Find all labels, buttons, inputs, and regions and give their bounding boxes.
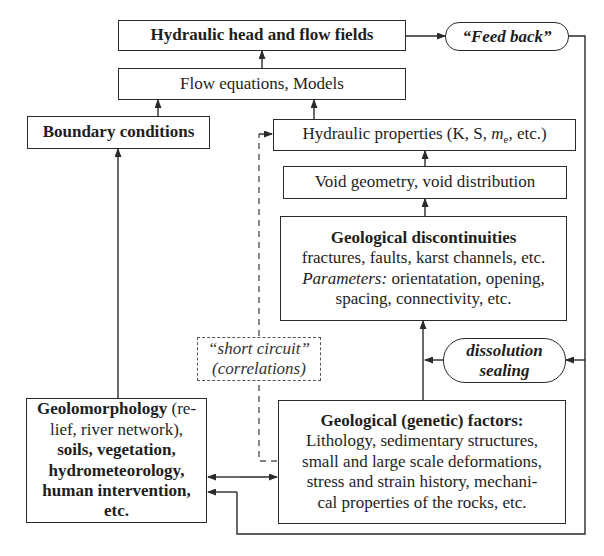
hp-post: , etc.) — [508, 124, 546, 143]
genetic-line4: cal properties of the rocks, etc. — [317, 493, 526, 513]
short-circuit-line1: “short circuit” — [208, 339, 310, 359]
node-boundary-conditions: Boundary conditions — [27, 116, 210, 149]
discontinuities-line1: fractures, faults, karst channels, etc. — [302, 248, 546, 268]
node-void-geometry: Void geometry, void distribution — [283, 166, 567, 199]
geomorph-line5: human intervention, — [42, 481, 190, 501]
geomorph-line2: lief, river network), — [50, 420, 183, 440]
params-text: orientatation, opening, — [387, 269, 545, 288]
node-short-circuit: “short circuit” (correlations) — [197, 337, 321, 381]
discontinuities-line2: Parameters: orientatation, opening, — [302, 269, 545, 289]
node-feed-back: “Feed back” — [445, 22, 569, 51]
node-boundary-conditions-label: Boundary conditions — [43, 122, 195, 142]
geomorph-line1: Geolomorphology (re- — [37, 399, 196, 419]
node-flow-equations: Flow equations, Models — [118, 68, 406, 100]
genetic-line2: small and large scale deformations, — [302, 452, 542, 472]
genetic-line1: Lithology, sedimentary structures, — [306, 431, 538, 451]
node-hydraulic-head-label: Hydraulic head and flow fields — [151, 25, 374, 45]
geomorph-line6: etc. — [104, 501, 129, 521]
short-circuit-line2: (correlations) — [212, 359, 306, 379]
node-geomorphology: Geolomorphology (re- lief, river network… — [26, 398, 207, 523]
node-genetic-factors: Geological (genetic) factors: Lithology,… — [278, 400, 566, 524]
genetic-line3: stress and strain history, mechani- — [307, 472, 538, 492]
dissolution-line1: dissolution — [466, 341, 543, 361]
node-geological-discontinuities: Geological discontinuities fractures, fa… — [280, 216, 567, 321]
params-label: Parameters: — [302, 269, 387, 288]
discontinuities-title: Geological discontinuities — [331, 228, 517, 248]
discontinuities-line3: spacing, connectivity, etc. — [336, 289, 512, 309]
geomorph-line4: hydrometeorology, — [49, 461, 185, 481]
node-hydraulic-head: Hydraulic head and flow fields — [118, 20, 406, 51]
node-flow-equations-label: Flow equations, Models — [180, 74, 344, 94]
node-feed-back-label: “Feed back” — [462, 27, 551, 47]
node-hydraulic-properties-label: Hydraulic properties (K, S, me, etc.) — [302, 124, 546, 146]
hp-pre: Hydraulic properties (K, S, — [302, 124, 491, 143]
geomorph-normal1: (re- — [167, 399, 196, 418]
node-void-geometry-label: Void geometry, void distribution — [315, 172, 536, 192]
geomorph-bold1: Geolomorphology — [37, 399, 167, 418]
geomorph-line3: soils, vegetation, — [57, 440, 176, 460]
node-dissolution-sealing: dissolution sealing — [443, 338, 566, 383]
sealing-line2: sealing — [479, 361, 529, 381]
node-hydraulic-properties: Hydraulic properties (K, S, me, etc.) — [273, 119, 576, 151]
hp-var: m — [491, 124, 503, 143]
genetic-title: Geological (genetic) factors: — [321, 411, 524, 431]
